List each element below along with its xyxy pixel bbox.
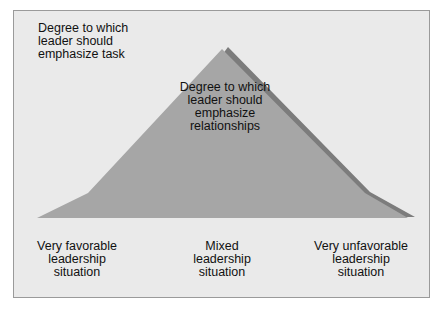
situation-favorable-label: Very favorable leadership situation bbox=[22, 240, 132, 279]
situation-mixed-label: Mixed leadership situation bbox=[167, 240, 277, 279]
label-line: situation bbox=[22, 266, 132, 279]
relationships-emphasis-label: Degree to which leader should emphasize … bbox=[165, 81, 285, 133]
task-emphasis-label: Degree to which leader should emphasize … bbox=[38, 22, 128, 61]
situation-unfavorable-label: Very unfavorable leadership situation bbox=[306, 240, 416, 279]
label-line: emphasize task bbox=[38, 48, 128, 61]
label-line: relationships bbox=[165, 120, 285, 133]
label-line: situation bbox=[167, 266, 277, 279]
label-line: situation bbox=[306, 266, 416, 279]
shape-body bbox=[37, 49, 408, 218]
